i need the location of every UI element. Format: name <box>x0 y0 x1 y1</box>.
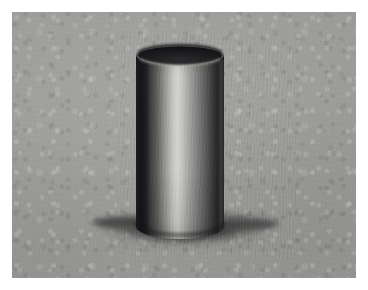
artwork-canvas <box>0 0 368 290</box>
cylinder-opening <box>136 45 224 66</box>
cylinder-highlight-streak <box>171 60 182 238</box>
cylinder-core-shadow <box>138 56 148 238</box>
cast-shadow-right-wing <box>224 220 280 229</box>
cylinder-drawing-svg <box>0 0 368 290</box>
graphite-drawing <box>0 0 368 290</box>
cylinder-body <box>134 44 226 244</box>
cylinder-form <box>134 44 226 244</box>
